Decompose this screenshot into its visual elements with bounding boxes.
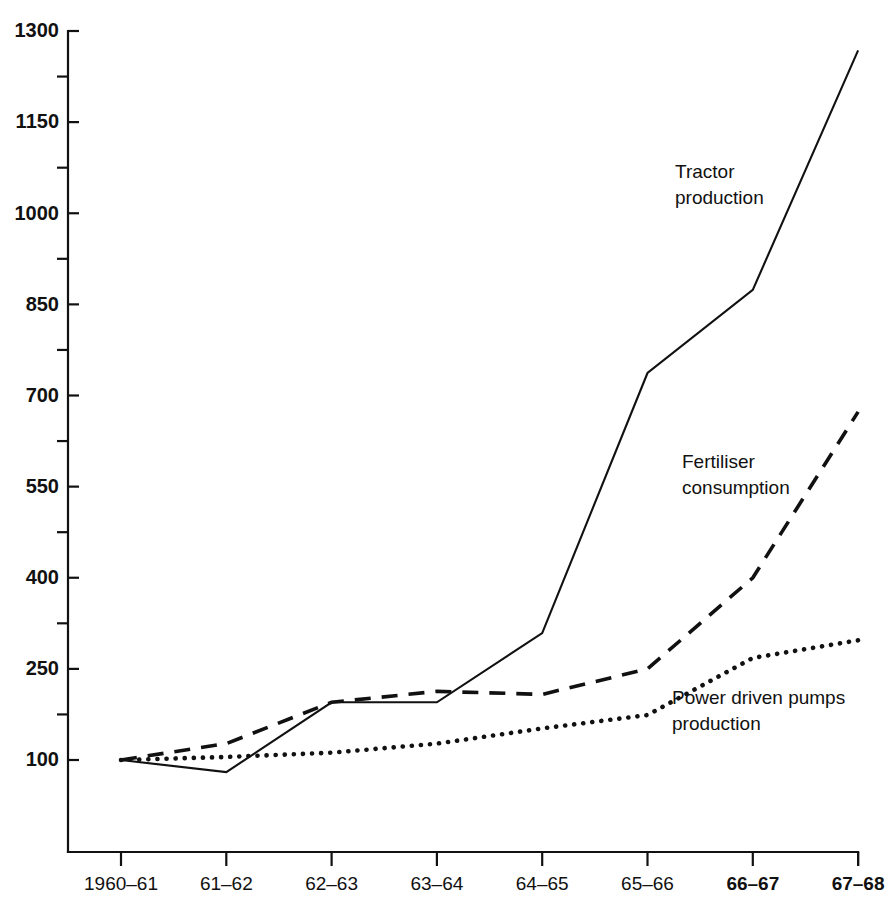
x-tick-label: 61–62 bbox=[200, 873, 253, 894]
series-label-line: consumption bbox=[682, 477, 790, 498]
series-line-solid bbox=[121, 50, 858, 772]
y-tick-label: 1150 bbox=[16, 110, 59, 132]
series-label-line: Fertiliser bbox=[682, 451, 756, 472]
series-label-line: production bbox=[672, 713, 761, 734]
series-label-line: Power driven pumps bbox=[672, 687, 845, 708]
y-tick-label: 550 bbox=[26, 475, 59, 497]
series-label-line: Tractor bbox=[675, 161, 735, 182]
annotation-1: Fertiliserconsumption bbox=[682, 451, 790, 498]
y-tick-label: 400 bbox=[26, 566, 59, 588]
annotation-0: Tractorproduction bbox=[675, 161, 764, 208]
series-annotations: TractorproductionFertiliserconsumptionPo… bbox=[672, 161, 845, 734]
annotation-2: Power driven pumpsproduction bbox=[672, 687, 845, 734]
x-tick-label: 65–66 bbox=[621, 873, 674, 894]
x-tick-label: 1960–61 bbox=[84, 873, 158, 894]
y-tick-label: 1000 bbox=[15, 202, 60, 224]
y-tick-label: 700 bbox=[26, 384, 59, 406]
y-axis: 100250400550700850100011501300 bbox=[15, 19, 80, 852]
x-tick-label: 62–63 bbox=[305, 873, 358, 894]
y-tick-label: 1300 bbox=[15, 19, 60, 41]
y-tick-label: 250 bbox=[26, 657, 59, 679]
y-tick-label: 850 bbox=[26, 293, 59, 315]
chart-figure: 100250400550700850100011501300 1960–6161… bbox=[0, 0, 888, 908]
y-tick-label: 100 bbox=[26, 748, 59, 770]
x-tick-label: 63–64 bbox=[410, 873, 463, 894]
series-label-line: production bbox=[675, 187, 764, 208]
x-tick-label: 66–67 bbox=[726, 873, 779, 894]
line-chart-canvas: 100250400550700850100011501300 1960–6161… bbox=[0, 0, 888, 908]
x-tick-label: 67–68 bbox=[832, 873, 885, 894]
x-axis: 1960–6161–6262–6363–6464–6565–6666–6767–… bbox=[68, 852, 885, 894]
data-series-group bbox=[121, 50, 858, 772]
x-tick-label: 64–65 bbox=[516, 873, 569, 894]
